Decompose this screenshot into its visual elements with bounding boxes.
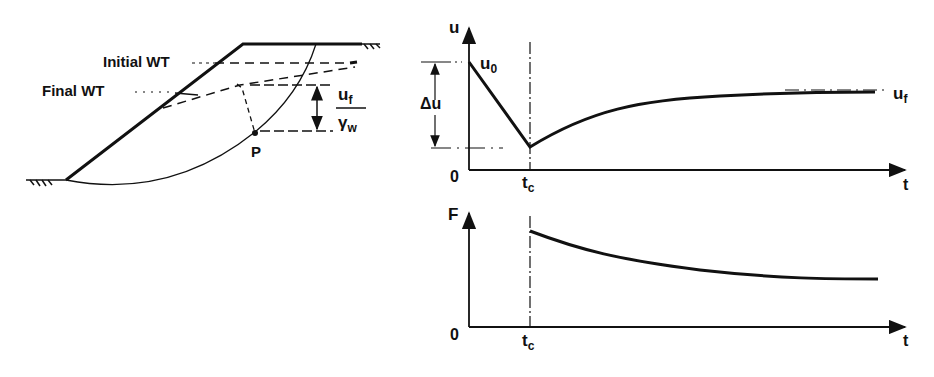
factor-of-safety-curve xyxy=(530,231,878,279)
final-wt-line xyxy=(163,67,355,108)
f-axis-label: F xyxy=(448,205,458,224)
pore-pressure-chart: u u0 Δu uf 0 tc t xyxy=(420,18,909,195)
tc-label-top: tc xyxy=(522,173,535,195)
origin-label-bottom: 0 xyxy=(450,326,459,343)
head-denominator: γw xyxy=(338,113,357,135)
factor-of-safety-chart: F 0 tc t xyxy=(448,205,909,353)
diagram-canvas: Initial WT Final WT P uf γw u u0 Δu uf 0… xyxy=(0,0,934,377)
ground-hatch-left-icon xyxy=(26,180,66,186)
uf-label: uf xyxy=(893,84,908,106)
equipotential-line xyxy=(237,84,255,133)
slope-section: Initial WT Final WT P uf γw xyxy=(26,44,380,186)
origin-label-top: 0 xyxy=(450,168,459,185)
head-numerator: uf xyxy=(338,85,353,107)
tc-label-bottom: tc xyxy=(522,331,535,353)
u0-label: u0 xyxy=(480,54,497,76)
t-label-top: t xyxy=(903,176,909,193)
t-label-bottom: t xyxy=(903,332,909,349)
ground-hatch-right-icon xyxy=(362,44,380,49)
initial-wt-label: Initial WT xyxy=(103,53,170,70)
point-p-label: P xyxy=(251,143,261,160)
final-wt-label: Final WT xyxy=(42,82,105,99)
point-p-marker xyxy=(252,130,258,136)
delta-u-label: Δu xyxy=(420,95,441,112)
u-axis-label: u xyxy=(449,18,459,37)
